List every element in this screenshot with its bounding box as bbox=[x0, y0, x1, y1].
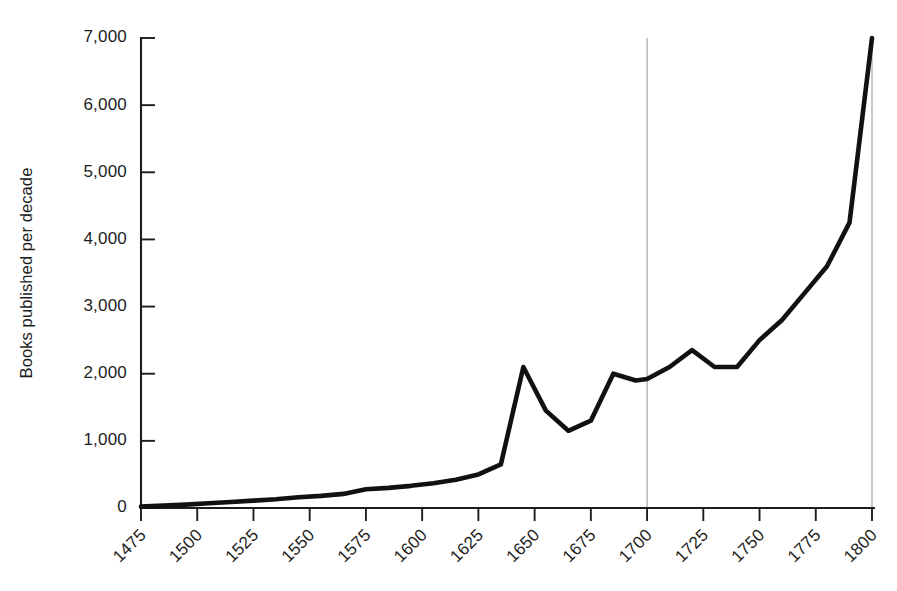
x-tick-label-1475: 1475 bbox=[109, 525, 150, 566]
y-tick-label-4000: 4,000 bbox=[83, 229, 127, 248]
x-tick-label-1700: 1700 bbox=[615, 525, 656, 566]
x-tick-label-1750: 1750 bbox=[728, 525, 769, 566]
y-tick-label-7000: 7,000 bbox=[83, 27, 127, 46]
x-axis-ticks-group bbox=[141, 508, 872, 521]
y-axis-tick-labels-group: 01,0002,0003,0004,0005,0006,0007,000 bbox=[83, 27, 127, 516]
data-series-line bbox=[141, 38, 872, 507]
x-tick-label-1575: 1575 bbox=[334, 525, 375, 566]
gridlines-group bbox=[647, 38, 872, 508]
y-tick-label-0: 0 bbox=[117, 497, 127, 516]
x-axis-tick-labels-group: 1475150015251550157516001625165016751700… bbox=[109, 525, 881, 566]
x-tick-label-1725: 1725 bbox=[671, 525, 712, 566]
y-tick-label-5000: 5,000 bbox=[83, 162, 127, 181]
y-axis-title: Books published per decade bbox=[17, 168, 35, 379]
y-tick-label-2000: 2,000 bbox=[83, 363, 127, 382]
line-chart-figure: 01,0002,0003,0004,0005,0006,0007,000 147… bbox=[0, 0, 897, 591]
x-tick-label-1625: 1625 bbox=[446, 525, 487, 566]
y-tick-label-3000: 3,000 bbox=[83, 296, 127, 315]
x-tick-label-1800: 1800 bbox=[840, 525, 881, 566]
x-tick-label-1775: 1775 bbox=[784, 525, 825, 566]
y-tick-label-6000: 6,000 bbox=[83, 95, 127, 114]
x-tick-label-1500: 1500 bbox=[165, 525, 206, 566]
y-tick-label-1000: 1,000 bbox=[83, 430, 127, 449]
x-tick-label-1675: 1675 bbox=[559, 525, 600, 566]
y-axis-ticks-group bbox=[141, 38, 155, 441]
x-tick-label-1650: 1650 bbox=[503, 525, 544, 566]
x-tick-label-1600: 1600 bbox=[390, 525, 431, 566]
chart-container: 01,0002,0003,0004,0005,0006,0007,000 147… bbox=[0, 0, 897, 591]
x-tick-label-1525: 1525 bbox=[222, 525, 263, 566]
x-tick-label-1550: 1550 bbox=[278, 525, 319, 566]
